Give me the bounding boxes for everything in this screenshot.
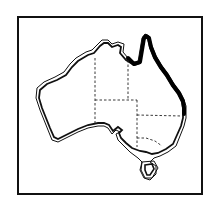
australia-map <box>0 0 215 209</box>
coastline-inner <box>39 37 183 154</box>
tasmania-inner <box>145 164 154 175</box>
